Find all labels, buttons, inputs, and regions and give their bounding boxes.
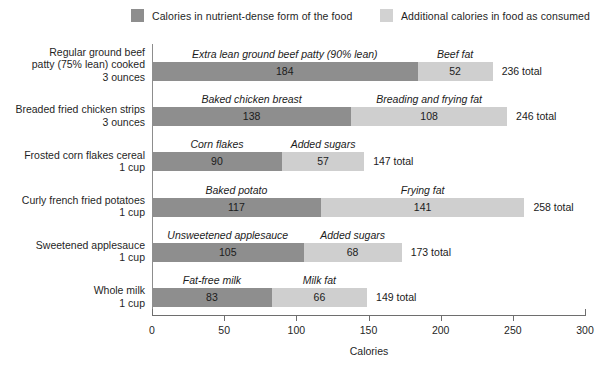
category-label-line: Frosted corn flakes cereal: [0, 149, 145, 161]
row-total-label: 258 total: [533, 198, 573, 217]
bar-segment-extra: Milk fat66: [272, 288, 367, 307]
bar-segment-base-value: 117: [152, 198, 321, 217]
category-label-line: 1 cup: [0, 206, 145, 218]
category-label-line: 3 ounces: [0, 71, 145, 83]
chart-row: Regular ground beefpatty (75% lean) cook…: [0, 44, 605, 88]
category-label-line: 1 cup: [0, 161, 145, 173]
legend-item-nutrient-dense: Calories in nutrient-dense form of the f…: [131, 9, 352, 22]
category-label-line: Curly french fried potatoes: [0, 194, 145, 206]
category-label: Breaded fried chicken strips3 ounces: [0, 103, 153, 128]
x-axis-tick-label: 50: [218, 324, 230, 336]
stacked-bar: Baked chicken breast138Breading and fryi…: [152, 107, 507, 126]
chart-row: Frosted corn flakes cereal1 cupCorn flak…: [0, 134, 605, 178]
x-axis-tick: [224, 315, 225, 321]
category-label: Curly french fried potatoes1 cup: [0, 194, 153, 219]
bar-segment-extra-value: 57: [282, 152, 364, 171]
stacked-bar: Corn flakes90Added sugars57: [152, 152, 364, 171]
x-axis-tick: [441, 315, 442, 321]
chart-legend: Calories in nutrient-dense form of the f…: [0, 9, 605, 27]
bar-segment-base-value: 138: [152, 107, 351, 126]
bar-segment-base-name: Baked potato: [152, 183, 321, 197]
stacked-bar: Baked potato117Frying fat141: [152, 198, 524, 217]
stacked-bar-chart: Calories in nutrient-dense form of the f…: [0, 0, 605, 374]
bar-segment-base-name: Corn flakes: [152, 137, 282, 151]
category-label: Sweetened applesauce1 cup: [0, 239, 153, 264]
stacked-bar: Extra lean ground beef patty (90% lean)1…: [152, 62, 493, 81]
bar-segment-base-value: 90: [152, 152, 282, 171]
bar-segment-extra-value: 68: [304, 243, 402, 262]
bar-segment-base-name: Baked chicken breast: [152, 92, 351, 106]
bar-segment-base: Corn flakes90: [152, 152, 282, 171]
bar-segment-extra: Beef fat52: [418, 62, 493, 81]
bar-segment-extra-value: 108: [351, 107, 507, 126]
x-axis-tick-label: 300: [576, 324, 594, 336]
x-axis-end-cap: [585, 309, 586, 316]
x-axis-tick: [513, 315, 514, 321]
category-label-line: Sweetened applesauce: [0, 239, 145, 251]
x-axis-tick: [369, 315, 370, 321]
bar-segment-extra-name: Beef fat: [418, 47, 493, 61]
category-label-line: 3 ounces: [0, 116, 145, 128]
bar-segment-base: Baked chicken breast138: [152, 107, 351, 126]
stacked-bar: Unsweetened applesauce105Added sugars68: [152, 243, 402, 262]
x-axis-end-cap: [152, 309, 153, 316]
bar-segment-extra-value: 52: [418, 62, 493, 81]
chart-row: Curly french fried potatoes1 cupBaked po…: [0, 180, 605, 224]
category-label-line: patty (75% lean) cooked: [0, 58, 145, 70]
row-total-label: 246 total: [516, 107, 556, 126]
bar-segment-extra-name: Milk fat: [272, 273, 367, 287]
bar-segment-extra-value: 66: [272, 288, 367, 307]
category-label: Regular ground beefpatty (75% lean) cook…: [0, 46, 153, 83]
bar-segment-base: Fat-free milk83: [152, 288, 272, 307]
bar-segment-extra: Breading and frying fat108: [351, 107, 507, 126]
category-label-line: Regular ground beef: [0, 46, 145, 58]
row-total-label: 236 total: [502, 62, 542, 81]
bar-segment-extra: Added sugars68: [304, 243, 402, 262]
bar-segment-base: Unsweetened applesauce105: [152, 243, 304, 262]
bar-segment-extra: Added sugars57: [282, 152, 364, 171]
x-axis-title: Calories: [152, 345, 586, 357]
x-axis-tick: [296, 315, 297, 321]
chart-row: Breaded fried chicken strips3 ouncesBake…: [0, 89, 605, 133]
bar-segment-base-name: Extra lean ground beef patty (90% lean): [152, 47, 418, 61]
bar-segment-extra-name: Added sugars: [304, 228, 402, 242]
category-label: Whole milk1 cup: [0, 284, 153, 309]
category-label-line: 1 cup: [0, 297, 145, 309]
bar-segment-base-value: 105: [152, 243, 304, 262]
x-axis-tick-label: 150: [360, 324, 378, 336]
category-label: Frosted corn flakes cereal1 cup: [0, 149, 153, 174]
chart-row: Whole milk1 cupFat-free milk83Milk fat66…: [0, 270, 605, 314]
bar-segment-base-value: 83: [152, 288, 272, 307]
bar-segment-base-name: Unsweetened applesauce: [152, 228, 304, 242]
legend-item-additional-calories: Additional calories in food as consumed: [380, 9, 590, 22]
category-label-line: 1 cup: [0, 251, 145, 263]
bar-segment-extra-name: Breading and frying fat: [351, 92, 507, 106]
bar-segment-extra-name: Frying fat: [321, 183, 525, 197]
bar-segment-base: Extra lean ground beef patty (90% lean)1…: [152, 62, 418, 81]
light-swatch-icon: [380, 9, 393, 22]
bar-segment-base: Baked potato117: [152, 198, 321, 217]
bar-segment-extra-name: Added sugars: [282, 137, 364, 151]
bar-segment-extra: Frying fat141: [321, 198, 525, 217]
row-total-label: 149 total: [376, 288, 416, 307]
category-label-line: Breaded fried chicken strips: [0, 103, 145, 115]
legend-label-nutrient-dense: Calories in nutrient-dense form of the f…: [152, 10, 352, 22]
x-axis-tick-label: 0: [149, 324, 155, 336]
x-axis-tick-label: 250: [504, 324, 522, 336]
row-total-label: 173 total: [411, 243, 451, 262]
stacked-bar: Fat-free milk83Milk fat66: [152, 288, 367, 307]
row-total-label: 147 total: [373, 152, 413, 171]
bar-segment-extra-value: 141: [321, 198, 525, 217]
x-axis-tick-label: 200: [432, 324, 450, 336]
chart-row: Sweetened applesauce1 cupUnsweetened app…: [0, 225, 605, 269]
category-label-line: Whole milk: [0, 284, 145, 296]
bar-segment-base-value: 184: [152, 62, 418, 81]
x-axis-tick-label: 100: [288, 324, 306, 336]
bar-segment-base-name: Fat-free milk: [152, 273, 272, 287]
dark-swatch-icon: [131, 9, 144, 22]
legend-label-additional-calories: Additional calories in food as consumed: [401, 10, 590, 22]
